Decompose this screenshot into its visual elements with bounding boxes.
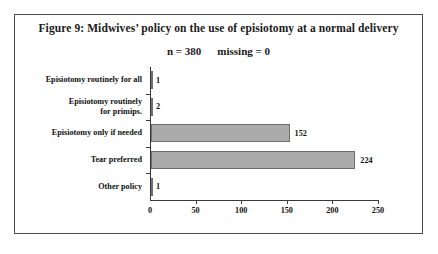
bar-row: 152	[151, 120, 307, 147]
x-axis-tick	[241, 200, 242, 204]
category-label: Tear preferred	[91, 155, 146, 165]
category-label-row: Episiotomy routinely for all	[15, 67, 146, 94]
missing-count-label: missing = 0	[217, 45, 270, 57]
bar-value-label: 224	[360, 156, 372, 165]
chart-plot-area: 121522241	[150, 67, 378, 200]
bar	[151, 178, 153, 196]
bar-value-label: 152	[295, 129, 307, 138]
x-axis-tick	[287, 200, 288, 204]
category-label: Episiotomy routinelyfor primips.	[69, 97, 146, 118]
sample-size-label: n = 380	[167, 45, 201, 57]
x-axis-tick-label: 0	[148, 206, 152, 215]
bar	[151, 151, 355, 169]
bar-value-label: 2	[156, 102, 160, 111]
category-label-row: Episiotomy only if needed	[15, 120, 146, 147]
category-label-line: Other policy	[98, 182, 142, 192]
bar	[151, 124, 290, 142]
figure-frame: Figure 9: Midwives’ policy on the use of…	[14, 14, 423, 234]
x-axis-tick-label: 250	[372, 206, 384, 215]
figure-subtitle: n = 380missing = 0	[15, 45, 422, 57]
category-label: Episiotomy only if needed	[52, 128, 146, 138]
category-label-row: Tear preferred	[15, 147, 146, 174]
category-label: Episiotomy routinely for all	[46, 75, 146, 85]
category-label-line: Episiotomy routinely for all	[46, 75, 142, 85]
category-label-line: Episiotomy routinely	[69, 97, 142, 107]
y-axis-tick	[146, 173, 150, 174]
x-axis-tick-label: 50	[192, 206, 200, 215]
y-axis-tick	[146, 120, 150, 121]
category-label-row: Episiotomy routinelyfor primips.	[15, 94, 146, 121]
y-axis-tick	[146, 147, 150, 148]
x-axis-tick	[378, 200, 379, 204]
x-axis-tick-label: 200	[326, 206, 338, 215]
category-label: Other policy	[98, 182, 146, 192]
category-label-line: Episiotomy only if needed	[52, 128, 142, 138]
bar-chart-plot: Episiotomy routinely for allEpisiotomy r…	[15, 67, 424, 233]
category-label-row: Other policy	[15, 173, 146, 200]
x-axis-line	[150, 200, 378, 201]
x-axis-tick	[332, 200, 333, 204]
category-axis-labels: Episiotomy routinely for allEpisiotomy r…	[15, 67, 146, 200]
x-axis-tick	[196, 200, 197, 204]
bar-row: 2	[151, 94, 160, 121]
bar-row: 1	[151, 67, 160, 94]
x-axis-tick-label: 100	[235, 206, 247, 215]
y-axis-tick	[146, 94, 150, 95]
bar-row: 1	[151, 173, 160, 200]
bar	[151, 98, 153, 116]
category-label-line: for primips.	[69, 107, 142, 117]
bar-value-label: 1	[156, 182, 160, 191]
bar-row: 224	[151, 147, 373, 174]
bar	[151, 71, 153, 89]
category-label-line: Tear preferred	[91, 155, 142, 165]
bar-value-label: 1	[156, 76, 160, 85]
x-axis-tick-label: 150	[281, 206, 293, 215]
figure-title: Figure 9: Midwives’ policy on the use of…	[15, 22, 422, 34]
